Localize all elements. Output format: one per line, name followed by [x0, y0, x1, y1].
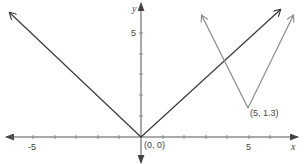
x-tick-label-neg5: -5	[28, 142, 36, 152]
y-axis	[139, 3, 143, 163]
vertex-label: (5, 1.3)	[250, 108, 279, 118]
series-abs-x	[10, 10, 280, 137]
graph: -5 5 5 x y (0, 0) (5, 1.3)	[0, 0, 304, 164]
y-tick-label-5: 5	[131, 28, 136, 38]
graph-canvas: -5 5 5 x y (0, 0) (5, 1.3)	[0, 0, 304, 164]
origin-label: (0, 0)	[144, 140, 165, 150]
x-axis-label: x	[290, 141, 296, 152]
series-translated	[202, 16, 293, 108]
x-axis	[6, 135, 298, 139]
x-tick-label-5: 5	[246, 142, 251, 152]
y-axis-label: y	[131, 3, 137, 14]
